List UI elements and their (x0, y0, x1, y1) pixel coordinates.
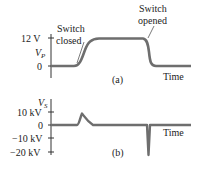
xlabel-time-b: Time (163, 127, 184, 138)
ytick-label-10kv: 10 kV (17, 107, 43, 118)
panel-b: VS 10 kV 0 −10 kV −20 kV Time (b) (10, 97, 191, 159)
figure: 12 V VP 0 Switch closed Switch opened Ti… (0, 0, 201, 171)
ytick-label-0-a: 0 (37, 61, 42, 72)
annotation-switch: Switch (57, 23, 85, 34)
ylabel-vp: VP (35, 47, 46, 60)
annotation-opened: opened (138, 15, 167, 26)
ytick-label-minus-10kv: −10 kV (12, 133, 43, 144)
panel-label-a: (a) (112, 74, 123, 86)
panel-label-b: (b) (112, 147, 124, 159)
ytick-label-0-b: 0 (38, 120, 43, 131)
annotation-closed: closed (56, 35, 82, 46)
annotation-switch-2: Switch (139, 3, 167, 14)
ytick-label-minus-20kv: −20 kV (10, 147, 41, 158)
panel-a: 12 V VP 0 Switch closed Switch opened Ti… (21, 3, 191, 86)
xlabel-time-a: Time (163, 71, 184, 82)
ytick-label-12v: 12 V (21, 33, 41, 44)
leader-opened (148, 26, 154, 38)
